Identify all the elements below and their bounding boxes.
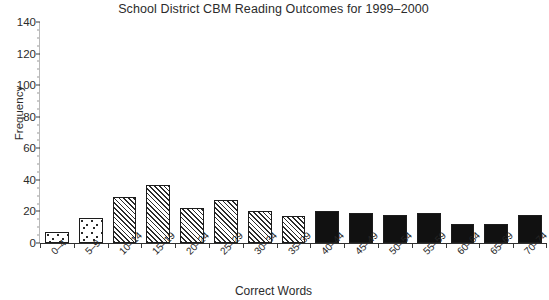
- x-tick-mark: [310, 244, 311, 248]
- x-tick-mark: [479, 244, 480, 248]
- y-tick-minor: [37, 29, 39, 30]
- y-tick-label: 0: [2, 237, 36, 249]
- x-tick-mark: [412, 244, 413, 248]
- y-tick-minor: [37, 45, 39, 46]
- x-tick-mark: [546, 244, 547, 248]
- y-tick-minor: [37, 61, 39, 62]
- x-tick-mark: [108, 244, 109, 248]
- y-tick-mark: [36, 22, 40, 23]
- y-tick-minor: [37, 93, 39, 94]
- x-tick-mark: [175, 244, 176, 248]
- y-tick-minor: [37, 132, 39, 133]
- y-tick-mark: [36, 148, 40, 149]
- y-tick-minor: [37, 108, 39, 109]
- bar-5-9: [79, 218, 103, 243]
- y-tick-minor: [37, 140, 39, 141]
- y-tick-minor: [37, 164, 39, 165]
- x-tick-mark: [141, 244, 142, 248]
- y-tick-label: 40: [2, 174, 36, 186]
- y-tick-mark: [36, 116, 40, 117]
- x-tick-mark: [513, 244, 514, 248]
- y-tick-minor: [37, 195, 39, 196]
- x-tick-mark: [40, 244, 41, 248]
- y-tick-minor: [37, 235, 39, 236]
- y-tick-label: 80: [2, 111, 36, 123]
- y-tick-label: 60: [2, 142, 36, 154]
- y-tick-minor: [37, 69, 39, 70]
- y-tick-minor: [37, 100, 39, 101]
- x-tick-mark: [209, 244, 210, 248]
- y-tick-minor: [37, 187, 39, 188]
- y-tick-minor: [37, 171, 39, 172]
- y-tick-minor: [37, 124, 39, 125]
- y-tick-label: 120: [2, 48, 36, 60]
- plot-area: [40, 22, 547, 243]
- x-tick-mark: [74, 244, 75, 248]
- y-tick-mark: [36, 179, 40, 180]
- x-tick-mark: [344, 244, 345, 248]
- y-tick-minor: [37, 77, 39, 78]
- y-axis-tick-labels: 020406080100120140: [0, 0, 36, 300]
- y-tick-minor: [37, 156, 39, 157]
- y-tick-minor: [37, 227, 39, 228]
- x-tick-mark: [446, 244, 447, 248]
- y-tick-label: 20: [2, 205, 36, 217]
- y-tick-mark: [36, 53, 40, 54]
- x-tick-mark: [243, 244, 244, 248]
- y-tick-label: 140: [2, 16, 36, 28]
- x-axis-label: Correct Words: [0, 284, 547, 298]
- y-tick-mark: [36, 211, 40, 212]
- y-tick-label: 100: [2, 79, 36, 91]
- x-tick-mark: [277, 244, 278, 248]
- y-tick-mark: [36, 85, 40, 86]
- chart-title: School District CBM Reading Outcomes for…: [0, 2, 547, 16]
- x-tick-mark: [378, 244, 379, 248]
- y-tick-minor: [37, 219, 39, 220]
- y-tick-minor: [37, 203, 39, 204]
- y-tick-minor: [37, 37, 39, 38]
